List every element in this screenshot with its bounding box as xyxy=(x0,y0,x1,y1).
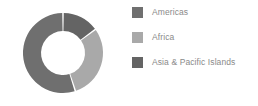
legend-item-asia-pacific-islands[interactable]: Asia & Pacific Islands xyxy=(132,56,256,68)
legend-item-africa[interactable]: Africa xyxy=(132,31,256,43)
donut-chart-svg xyxy=(0,0,128,106)
legend-label-africa: Africa xyxy=(152,32,174,43)
legend-swatch-americas xyxy=(132,7,143,18)
legend-item-americas[interactable]: Americas xyxy=(132,6,256,18)
donut-chart-figure: Americas Africa Asia & Pacific Islands xyxy=(0,0,258,106)
donut-slice-group xyxy=(23,13,103,93)
chart-legend: Americas Africa Asia & Pacific Islands xyxy=(132,6,256,100)
donut-slice-africa[interactable] xyxy=(70,30,103,91)
legend-swatch-africa xyxy=(132,32,143,43)
donut-chart-plot-area xyxy=(0,0,128,106)
legend-label-americas: Americas xyxy=(152,7,188,18)
legend-swatch-asia-pacific-islands xyxy=(132,57,143,68)
legend-label-asia-pacific-islands: Asia & Pacific Islands xyxy=(152,57,235,68)
